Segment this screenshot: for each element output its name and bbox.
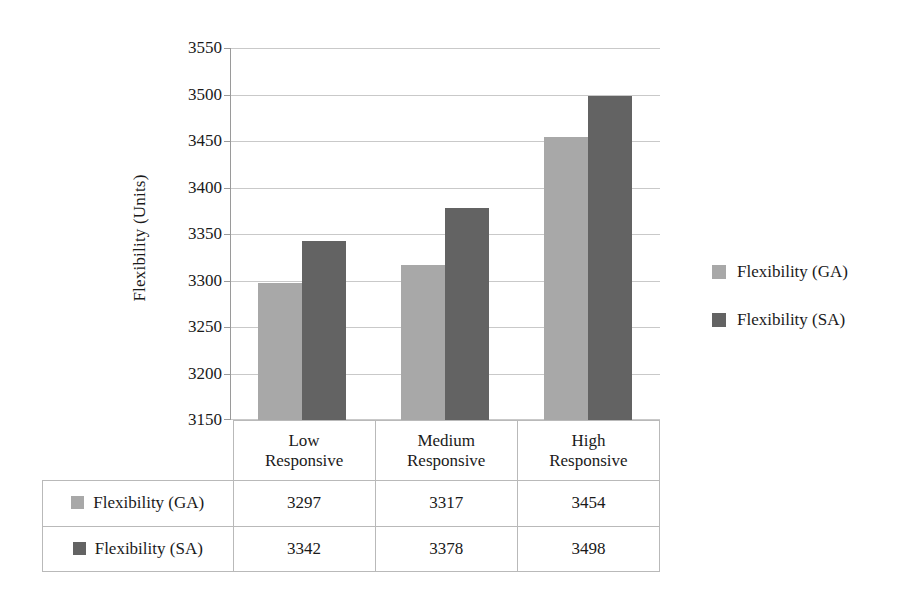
table-cell: 3317 [375,481,517,526]
y-tick-label: 3500 [188,85,222,105]
category-line-2: Responsive [376,451,517,471]
table-column-header-medium: Medium Responsive [375,421,517,481]
bar-low-responsive-sa [302,241,346,420]
bar-high-responsive-sa [588,96,632,420]
y-tick-label: 3300 [188,271,222,291]
legend-swatch-icon [712,265,726,279]
table-cell: 3297 [233,481,375,526]
table-cell: 3454 [517,481,659,526]
legend-swatch-icon [712,313,726,327]
table-row: Flexibility (GA) 3297 3317 3454 [43,481,660,526]
data-table: Low Responsive Medium Responsive High Re… [42,420,660,572]
y-tick-label: 3450 [188,131,222,151]
chart-legend: Flexibility (GA) Flexibility (SA) [712,262,848,358]
bars-layer [230,48,660,420]
series-swatch-icon [71,496,84,509]
series-swatch-icon [73,542,86,555]
y-tick-label: 3250 [188,317,222,337]
table-cell: 3498 [517,526,659,571]
series-name: Flexibility (GA) [93,493,204,512]
plot-area [230,48,660,420]
table-column-header-low: Low Responsive [233,421,375,481]
table-row: Flexibility (SA) 3342 3378 3498 [43,526,660,571]
bar-low-responsive-ga [258,283,302,420]
table-cell: 3378 [375,526,517,571]
table-row-categories: Low Responsive Medium Responsive High Re… [43,421,660,481]
category-line-1: Medium [376,431,517,451]
table-column-header-high: High Responsive [517,421,659,481]
category-line-2: Responsive [518,451,659,471]
y-tick-label: 3200 [188,364,222,384]
legend-item-ga: Flexibility (GA) [712,262,848,282]
bar-medium-responsive-ga [401,265,445,420]
series-name: Flexibility (SA) [95,539,203,558]
bar-chart-figure: Flexibility (Units) 3550 3500 3450 3400 … [0,0,913,605]
category-line-1: High [518,431,659,451]
table-row-header-ga: Flexibility (GA) [43,481,234,526]
table-row-header-sa: Flexibility (SA) [43,526,234,571]
y-tick-label: 3400 [188,178,222,198]
table-corner-cell [43,421,234,481]
bar-medium-responsive-sa [445,208,489,420]
table-cell: 3342 [233,526,375,571]
y-tick-label: 3350 [188,224,222,244]
y-tick-label: 3550 [188,38,222,58]
bar-high-responsive-ga [544,137,588,420]
legend-item-sa: Flexibility (SA) [712,310,848,330]
category-line-2: Responsive [234,451,375,471]
y-axis-title: Flexibility (Units) [130,108,150,368]
category-line-1: Low [234,431,375,451]
legend-label: Flexibility (SA) [737,310,845,330]
legend-label: Flexibility (GA) [737,262,848,282]
